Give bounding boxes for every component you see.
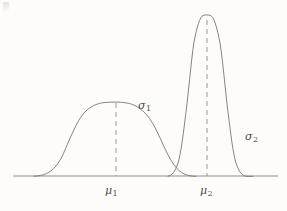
normal-distribution-figure: σ1 σ2 μ1 μ2 xyxy=(0,0,287,211)
sigma-2-subscript: 2 xyxy=(253,135,258,144)
sigma-2-symbol: σ xyxy=(245,130,253,143)
sigma-1-symbol: σ xyxy=(138,99,146,112)
sigma-2-label: σ2 xyxy=(245,127,258,144)
sigma-1-label: σ1 xyxy=(138,96,151,113)
distribution-curve-2 xyxy=(168,15,253,177)
mu-1-subscript: 1 xyxy=(112,189,117,198)
distribution-curve-1 xyxy=(34,102,196,176)
mu-1-label: μ1 xyxy=(105,181,118,198)
mu-2-label: μ2 xyxy=(200,181,213,198)
mu-2-subscript: 2 xyxy=(207,189,212,198)
sigma-1-subscript: 1 xyxy=(146,104,151,113)
